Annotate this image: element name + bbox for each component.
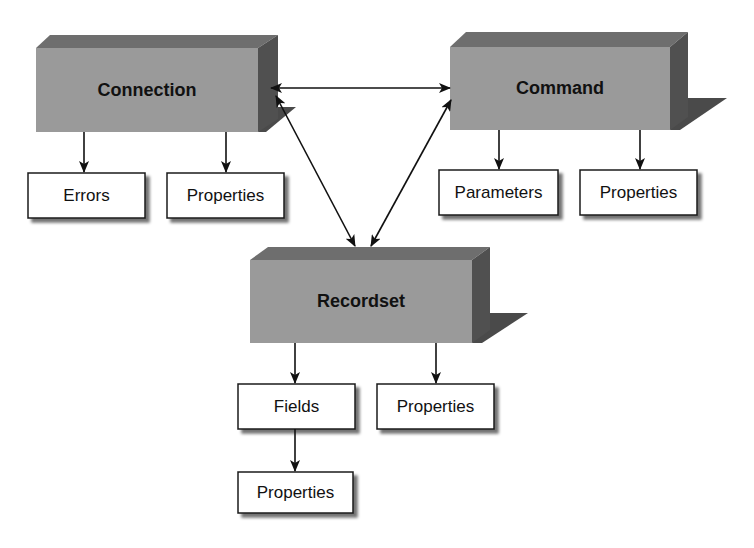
connection-side-face — [258, 35, 278, 132]
fields-properties-label: Properties — [238, 472, 353, 513]
command-top-face — [450, 32, 688, 47]
errors-label: Errors — [28, 173, 145, 218]
connection-label: Connection — [36, 48, 258, 132]
recordset-properties-label: Properties — [377, 384, 494, 429]
recordset-label: Recordset — [250, 260, 472, 343]
fields-label: Fields — [238, 384, 355, 429]
connection-top-face — [36, 35, 278, 48]
connection-properties-label: Properties — [167, 173, 284, 218]
command-properties-label: Properties — [580, 170, 697, 215]
recordset-side-face — [472, 247, 490, 343]
parameters-label: Parameters — [439, 170, 558, 215]
command-label: Command — [450, 47, 670, 130]
command-side-face — [670, 32, 688, 130]
arrow-connection-recordset — [276, 96, 355, 246]
recordset-top-face — [250, 247, 490, 260]
